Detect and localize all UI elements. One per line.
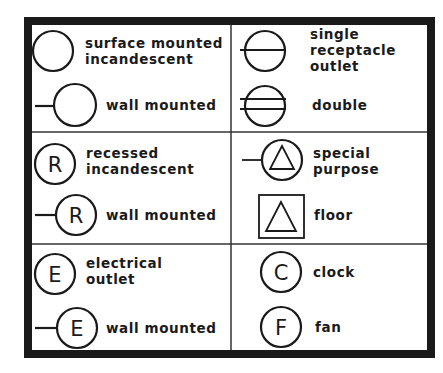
label-surface-mounted-incandescent: surface mounted incandescent [85, 35, 223, 67]
svg-text:R: R [48, 153, 63, 177]
label-fan: fan [315, 319, 341, 335]
electrical-outlet-icon: E [35, 254, 75, 294]
label-floor: floor [314, 207, 353, 223]
svg-text:C: C [274, 261, 289, 285]
label-special-purpose: special purpose [313, 145, 379, 177]
label-surface-wall-mounted: wall mounted [106, 97, 217, 113]
label-electrical-wall-mounted: wall mounted [106, 320, 217, 336]
surface-mounted-incandescent-icon [33, 31, 73, 71]
floor-outlet-icon [259, 195, 304, 238]
svg-text:E: E [70, 317, 83, 341]
double-receptacle-outlet-icon [240, 86, 286, 126]
svg-text:E: E [48, 263, 61, 287]
special-purpose-outlet-icon [242, 140, 302, 180]
svg-text:F: F [275, 316, 287, 340]
electrical-wall-mounted-icon: E [35, 308, 97, 348]
electrical-symbols-legend: R R E E [0, 0, 443, 373]
label-double-receptacle: double [312, 97, 368, 113]
label-electrical-outlet: electrical outlet [86, 255, 162, 287]
label-recessed-incandescent: recessed incandescent [86, 145, 194, 177]
single-receptacle-outlet-icon [240, 31, 285, 71]
label-single-receptacle-outlet: single receptacle outlet [310, 26, 396, 74]
svg-text:R: R [69, 204, 84, 228]
recessed-incandescent-icon: R [35, 144, 75, 184]
fan-icon: F [261, 307, 301, 347]
recessed-wall-mounted-icon: R [35, 195, 96, 235]
wall-mounted-light-icon [35, 84, 96, 126]
label-clock: clock [313, 264, 355, 280]
clock-icon: C [261, 252, 301, 292]
label-recessed-wall-mounted: wall mounted [106, 207, 217, 223]
